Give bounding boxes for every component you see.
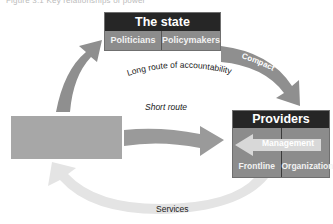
management-label: Management [255, 138, 321, 148]
clients-box [11, 116, 122, 159]
state-cells: Politicians Policymakers [105, 31, 220, 50]
state-title: The state [105, 13, 220, 31]
providers-box: Providers Frontline Organizations Manage… [232, 110, 330, 178]
state-box: The state Politicians Policymakers [104, 12, 221, 51]
long-route-arrow-icon [56, 40, 102, 112]
services-label: Services [156, 204, 189, 214]
providers-title: Providers [233, 111, 329, 128]
long-route-label: Long route of accountability [126, 60, 234, 78]
providers-body: Frontline Organizations Management [233, 128, 329, 177]
short-route-arrow-icon [124, 126, 224, 156]
policymakers-cell: Policymakers [161, 31, 220, 50]
politicians-cell: Politicians [105, 31, 161, 50]
short-route-label: Short route [145, 102, 187, 112]
compact-arrow-icon [221, 46, 300, 106]
organizations-cell: Organizations [282, 161, 330, 171]
frontline-cell: Frontline [233, 161, 281, 171]
